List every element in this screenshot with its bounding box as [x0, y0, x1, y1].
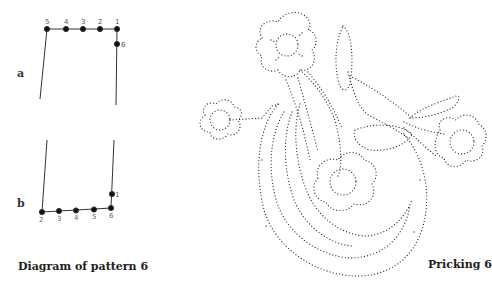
- pin-label: 5: [92, 213, 96, 221]
- pin-label: 2: [39, 216, 43, 224]
- pattern-diagram-lines: 5 4 3 2 1 6 2 3 4 5 6 1: [0, 0, 180, 281]
- center-leaf: [354, 125, 412, 150]
- center-flower: [314, 153, 376, 211]
- upper-leaf: [336, 26, 352, 90]
- pricking-dots: [180, 0, 492, 281]
- pricking-pattern: Pricking 6: [180, 0, 492, 281]
- diagram-part-b-numbers: 2 3 4 5 6 1: [39, 191, 119, 224]
- pattern-diagram: 5 4 3 2 1 6 2 3 4 5 6 1 a b Diag: [0, 0, 180, 281]
- stems: [286, 70, 412, 176]
- pin-label: 6: [109, 212, 114, 220]
- pin-label: 3: [57, 215, 61, 223]
- diagram-part-a-numbers: 5 4 3 2 1 6: [45, 18, 126, 49]
- part-b-label: b: [17, 197, 25, 210]
- pin-label: 2: [98, 18, 102, 26]
- pin-label: 1: [115, 18, 119, 26]
- pin-label: 4: [74, 214, 79, 222]
- pin-label: 3: [81, 18, 85, 26]
- pin-label: 6: [121, 41, 126, 49]
- pin-label: 5: [45, 18, 49, 26]
- right-flower: [435, 115, 486, 167]
- pin-label: 4: [64, 18, 69, 26]
- top-flower: [256, 12, 316, 76]
- diagram-part-b: [39, 140, 114, 215]
- large-curve: [259, 104, 427, 276]
- pricking-caption: Pricking 6: [428, 258, 492, 271]
- pin-label: 1: [115, 191, 119, 199]
- diagram-part-a: [40, 26, 120, 105]
- part-a-label: a: [17, 67, 24, 80]
- diagram-caption: Diagram of pattern 6: [18, 260, 148, 273]
- left-flower: [200, 100, 280, 139]
